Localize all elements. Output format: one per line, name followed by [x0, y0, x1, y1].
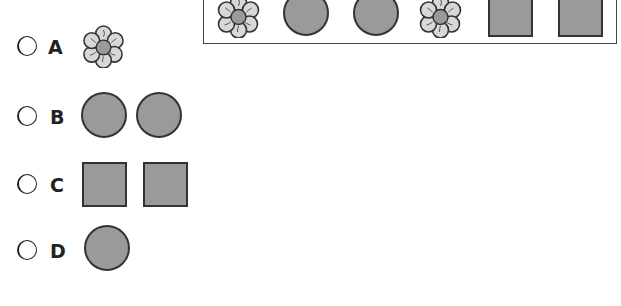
circle-shape	[84, 225, 130, 271]
pattern-box	[203, 0, 617, 44]
radio-option-c[interactable]	[17, 174, 37, 194]
flower-icon	[81, 25, 126, 68]
circle-shape	[136, 92, 182, 138]
flower-icon	[418, 0, 463, 38]
flower-icon	[216, 0, 261, 38]
option-a-label: A	[48, 37, 63, 57]
square-shape	[143, 162, 188, 207]
radio-option-a[interactable]	[17, 36, 37, 56]
radio-option-d[interactable]	[17, 240, 37, 260]
square-shape	[82, 162, 127, 207]
radio-option-b[interactable]	[17, 106, 37, 126]
option-d-label: D	[50, 241, 66, 261]
circle-shape	[81, 92, 127, 138]
option-c-label: C	[50, 175, 64, 195]
square-shape	[488, 0, 533, 37]
square-shape	[558, 0, 603, 37]
option-b-label: B	[50, 107, 64, 127]
